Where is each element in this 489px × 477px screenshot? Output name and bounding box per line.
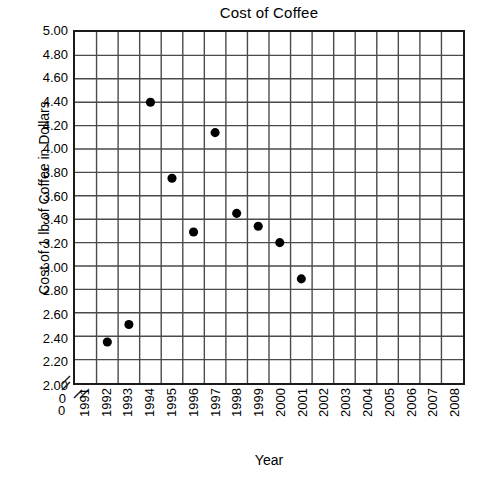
x-tick-label: 1991 bbox=[77, 388, 91, 446]
x-tick-label: 1992 bbox=[99, 388, 113, 446]
x-tick-label: 1998 bbox=[229, 388, 243, 446]
x-tick-label: 2007 bbox=[425, 388, 439, 446]
x-tick-label: 1995 bbox=[164, 388, 178, 446]
x-tick-label: 1993 bbox=[120, 388, 134, 446]
y-tick-label: 2.20 bbox=[24, 355, 68, 368]
x-axis-title: Year bbox=[73, 452, 465, 468]
x-tick-label: 1997 bbox=[208, 388, 222, 446]
data-point bbox=[297, 274, 306, 283]
data-point bbox=[232, 209, 241, 218]
data-points-layer bbox=[75, 32, 463, 383]
chart-title: Cost of Coffee bbox=[73, 4, 465, 22]
x-tick-label: 2008 bbox=[447, 388, 461, 446]
data-point bbox=[167, 174, 176, 183]
x-tick-label: 1999 bbox=[251, 388, 265, 446]
plot-area bbox=[73, 30, 465, 385]
x-tick-label: 2002 bbox=[316, 388, 330, 446]
data-point bbox=[254, 222, 263, 231]
data-point bbox=[103, 338, 112, 347]
data-point bbox=[124, 320, 133, 329]
y-tick-label: 5.00 bbox=[24, 24, 68, 37]
data-point bbox=[275, 238, 284, 247]
x-axis-tick-labels: 1991199219931994199519961997199819992000… bbox=[73, 388, 465, 450]
x-tick-label: 2005 bbox=[382, 388, 396, 446]
data-point bbox=[146, 98, 155, 107]
x-tick-label: 2006 bbox=[404, 388, 418, 446]
x-tick-label: 1994 bbox=[142, 388, 156, 446]
chart-figure: Cost of Coffee 5.004.804.604.404.204.003… bbox=[0, 0, 489, 477]
x-tick-label: 2001 bbox=[295, 388, 309, 446]
x-tick-label: 2004 bbox=[360, 388, 374, 446]
x-tick-label: 1996 bbox=[186, 388, 200, 446]
y-axis-title: Cost of 1 lb of Coffee in Dollars bbox=[36, 48, 52, 348]
x-tick-label: 2000 bbox=[273, 388, 287, 446]
data-point bbox=[189, 228, 198, 237]
x-tick-label: 2003 bbox=[338, 388, 352, 446]
x-axis-origin-label: 0 bbox=[58, 404, 65, 417]
data-point bbox=[211, 128, 220, 137]
